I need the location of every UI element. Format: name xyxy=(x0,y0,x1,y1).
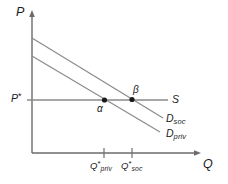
demand-social-letter: D xyxy=(166,112,174,124)
q-priv-subscript: priv xyxy=(101,165,112,172)
demand-private-letter: D xyxy=(166,127,174,139)
economics-supply-demand-figure: P Q P* S Dsoc Dpriv α β Q*priv Q*soc xyxy=(0,0,228,184)
point-beta-label: β xyxy=(133,85,139,95)
demand-social-subscript: soc xyxy=(174,117,186,126)
price-star-letter: P xyxy=(11,92,18,104)
demand-social-label: Dsoc xyxy=(166,113,186,125)
supply-curve-label: S xyxy=(172,94,179,105)
quantity-axis-arrow-icon xyxy=(194,150,201,156)
price-star-label: P* xyxy=(11,92,21,104)
demand-private-curve xyxy=(32,56,160,132)
demand-private-subscript: priv xyxy=(174,132,187,141)
price-axis-arrow-icon xyxy=(29,10,35,17)
price-star-asterisk: * xyxy=(18,91,21,101)
demand-private-label: Dpriv xyxy=(166,128,186,140)
figure-canvas xyxy=(0,0,228,184)
tick-label-q-soc: Q*soc xyxy=(121,160,142,172)
quantity-axis-label: Q xyxy=(203,158,213,171)
price-axis-label: P xyxy=(16,6,24,19)
q-soc-subscript: soc xyxy=(132,165,143,172)
point-alpha-label: α xyxy=(97,104,103,114)
point-alpha-marker xyxy=(102,97,107,102)
point-beta-marker xyxy=(129,97,134,102)
tick-label-q-priv: Q*priv xyxy=(90,160,112,172)
